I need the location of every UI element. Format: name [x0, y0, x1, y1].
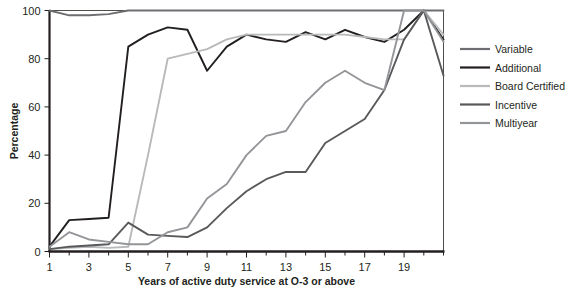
y-tick-label: 80: [28, 53, 40, 65]
legend-label-incentive: Incentive: [495, 99, 537, 111]
x-tick-label: 1: [46, 261, 52, 273]
legend-label-board-certified: Board Certified: [495, 80, 565, 92]
x-tick-label: 11: [241, 261, 252, 273]
x-tick-label: 13: [280, 261, 292, 273]
plot-frame: [49, 11, 445, 252]
legend-label-additional: Additional: [495, 62, 541, 74]
x-tick-label: 3: [86, 261, 92, 273]
y-tick-label: 100: [22, 5, 40, 17]
y-tick-label: 40: [28, 149, 40, 161]
y-tick-label: 0: [34, 246, 40, 258]
legend-label-variable: Variable: [495, 43, 533, 55]
x-tick-label: 19: [398, 261, 410, 273]
y-axis-title: Percentage: [8, 103, 20, 160]
x-tick-label: 9: [204, 261, 210, 273]
legend-label-multiyear: Multiyear: [495, 117, 538, 129]
x-axis-title: Years of active duty service at O-3 or a…: [138, 275, 355, 287]
x-tick-label: 7: [165, 261, 171, 273]
y-axis-ticks: 020406080100: [22, 5, 49, 258]
y-tick-label: 20: [28, 197, 40, 209]
x-axis-ticks: 135791113151719: [46, 252, 443, 273]
series-line-additional: [50, 11, 444, 247]
y-tick-label: 60: [28, 101, 40, 113]
x-tick-label: 15: [319, 261, 331, 273]
x-tick-label: 17: [359, 261, 371, 273]
series-line-variable: [50, 11, 444, 16]
chart-figure: 020406080100 135791113151719 VariableAdd…: [0, 0, 565, 293]
x-tick-label: 5: [125, 261, 131, 273]
line-chart: 020406080100 135791113151719 VariableAdd…: [0, 0, 565, 293]
series-group: [50, 11, 444, 250]
chart-legend: VariableAdditionalBoard CertifiedIncenti…: [460, 43, 565, 129]
